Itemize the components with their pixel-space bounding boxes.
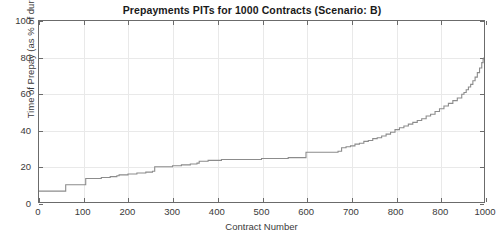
y-tick-mark xyxy=(39,204,43,205)
x-tick-label: 200 xyxy=(119,206,135,217)
y-tick-label: 0 xyxy=(0,198,31,209)
x-tick-label: 500 xyxy=(254,206,270,217)
x-tick-label: 100 xyxy=(75,206,91,217)
x-tick-label: 600 xyxy=(298,206,314,217)
x-tick-label: 0 xyxy=(35,206,40,217)
y-tick-mark xyxy=(480,204,484,205)
x-tick-mark xyxy=(486,198,487,202)
y-tick-label: 80 xyxy=(0,51,31,62)
y-tick-label: 100 xyxy=(0,15,31,26)
y-tick-label: 20 xyxy=(0,161,31,172)
x-axis-label: Contract Number xyxy=(38,221,485,232)
x-tick-label: 700 xyxy=(343,206,359,217)
x-tick-label: 300 xyxy=(164,206,180,217)
chart-title: Prepayments PITs for 1000 Contracts (Sce… xyxy=(0,4,504,16)
x-tick-mark xyxy=(486,21,487,25)
y-tick-label: 40 xyxy=(0,124,31,135)
x-tick-label: 800 xyxy=(388,206,404,217)
x-tick-label: 400 xyxy=(209,206,225,217)
x-tick-label: 1000 xyxy=(474,206,495,217)
data-series-layer xyxy=(39,21,484,202)
plot-area xyxy=(38,20,485,203)
y-tick-label: 60 xyxy=(0,88,31,99)
chart-screenshot: Prepayments PITs for 1000 Contracts (Sce… xyxy=(0,0,504,239)
x-tick-label: 800 xyxy=(432,206,448,217)
prepayment-curve xyxy=(39,21,484,202)
